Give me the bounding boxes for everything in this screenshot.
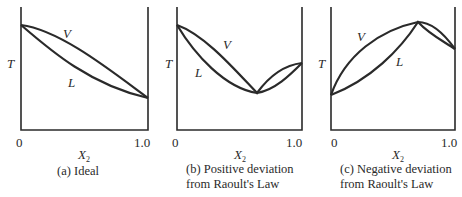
panel-a-caption: (a) Ideal bbox=[57, 164, 99, 178]
panel-a-x-tick-1: 1.0 bbox=[134, 136, 150, 149]
panel-a-axes bbox=[21, 7, 148, 130]
panel-c-axes bbox=[331, 7, 455, 130]
panel-a-vapor-curve bbox=[21, 25, 148, 98]
panel-c-x-axis-symbol: X bbox=[392, 147, 400, 162]
panel-b-x-axis-symbol: X bbox=[234, 147, 242, 162]
panel-a-liquid-curve bbox=[21, 25, 148, 98]
panel-b-vapor-curve bbox=[177, 25, 302, 93]
panel-a-liquid-label: L bbox=[68, 76, 75, 89]
panel-a-vapor-label: V bbox=[63, 27, 71, 40]
panel-a-x-axis-symbol: X bbox=[78, 147, 86, 162]
panel-a-x-axis-subscript: 2 bbox=[86, 155, 90, 164]
panel-c-caption-line2: from Raoult's Law bbox=[340, 177, 433, 191]
panel-c-liquid-curve bbox=[331, 22, 455, 95]
panel-c-x-tick-0: 0 bbox=[331, 136, 338, 149]
panel-b-x-tick-1: 1.0 bbox=[286, 136, 302, 149]
panel-b-caption-line2: from Raoult's Law bbox=[186, 177, 279, 191]
panel-b-vapor-label: V bbox=[223, 38, 231, 51]
panel-b-x-tick-0: 0 bbox=[172, 136, 179, 149]
panel-c-y-axis-label: T bbox=[318, 57, 325, 70]
panel-b-caption-line1: (b) Positive deviation bbox=[186, 162, 294, 176]
panel-c-liquid-label: L bbox=[396, 55, 403, 68]
panel-c-x-tick-1: 1.0 bbox=[441, 136, 457, 149]
panel-c-vapor-label: V bbox=[357, 30, 365, 43]
panel-b-liquid-label: L bbox=[195, 66, 202, 79]
panel-a-x-tick-0: 0 bbox=[16, 136, 23, 149]
panel-b-y-axis-label: T bbox=[165, 57, 172, 70]
panel-c-vapor-curve bbox=[331, 22, 455, 95]
panel-a-y-axis-label: T bbox=[7, 57, 14, 70]
panel-c-caption-line1: (c) Negative deviation bbox=[340, 162, 452, 176]
